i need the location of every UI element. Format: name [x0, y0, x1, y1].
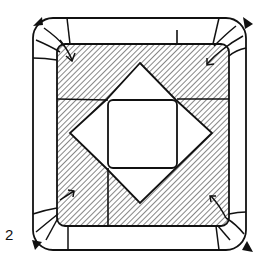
origami-diagram	[0, 0, 264, 260]
step-number: 2	[5, 226, 13, 243]
center-rounded-square	[108, 100, 177, 168]
